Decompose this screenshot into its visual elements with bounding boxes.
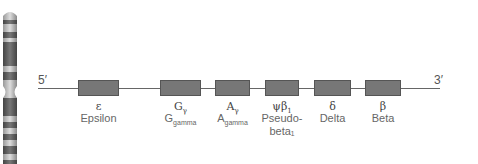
gene-name: Epsilon (69, 112, 129, 125)
five-prime-label: 5′ (38, 73, 47, 87)
gene-box (314, 80, 351, 96)
gene-name: Beta (353, 112, 413, 125)
gene-box (265, 80, 299, 96)
gene-box (365, 80, 401, 96)
gene-box (78, 80, 119, 96)
three-prime-label: 3′ (434, 73, 443, 87)
chromosome-icon (2, 10, 18, 164)
gene-name: Ggamma (151, 112, 211, 129)
gene-box (215, 80, 250, 96)
gene-box (160, 80, 201, 96)
